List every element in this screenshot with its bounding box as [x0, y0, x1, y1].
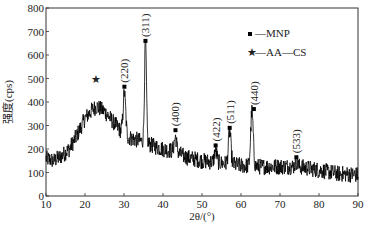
- legend-label-mnp: —MNP: [254, 27, 290, 39]
- y-tick-label: 200: [28, 143, 45, 155]
- x-tick-label: 50: [197, 198, 209, 210]
- hkl-label: (440): [248, 81, 261, 105]
- x-tick-label: 10: [41, 198, 53, 210]
- square-marker-icon: [228, 126, 232, 130]
- y-tick-label: 100: [28, 167, 45, 179]
- x-axis-title: 2θ/(°): [189, 210, 215, 223]
- x-tick-label: 20: [80, 198, 92, 210]
- square-marker-icon: [294, 155, 298, 159]
- hkl-label: (422): [210, 117, 223, 141]
- square-marker-icon: [122, 85, 126, 89]
- square-marker-icon: [173, 128, 177, 132]
- x-tick-label: 80: [314, 198, 326, 210]
- y-axis-title: 强度(cps): [1, 80, 15, 124]
- y-tick-label: 800: [28, 2, 45, 14]
- legend: —MNP ★ —AA—CS: [247, 27, 306, 58]
- hkl-label: (533): [290, 129, 303, 153]
- y-tick-label: 500: [28, 73, 45, 85]
- xrd-data-line: [46, 40, 358, 183]
- hkl-label: (511): [224, 100, 237, 124]
- hkl-label: (400): [169, 102, 182, 126]
- star-marker-icon: ★: [91, 73, 101, 85]
- x-tick-label: 90: [353, 198, 365, 210]
- y-tick-label: 700: [28, 26, 45, 38]
- y-tick-label: 300: [28, 120, 45, 132]
- hkl-label: (220): [118, 59, 131, 83]
- hkl-label: (311): [139, 13, 152, 37]
- x-tick-label: 70: [275, 198, 287, 210]
- legend-label-aacs: —AA—CS: [254, 46, 306, 58]
- y-tick-label: 600: [28, 49, 45, 61]
- x-tick-label: 60: [236, 198, 248, 210]
- legend-square-icon: [248, 32, 252, 36]
- square-marker-icon: [252, 107, 256, 111]
- x-tick-label: 30: [119, 198, 131, 210]
- square-marker-icon: [143, 39, 147, 43]
- xrd-chart: 0100200300400500600700800 10203040506070…: [0, 0, 366, 226]
- square-marker-icon: [214, 143, 218, 147]
- y-tick-label: 400: [28, 96, 45, 108]
- x-tick-label: 40: [158, 198, 170, 210]
